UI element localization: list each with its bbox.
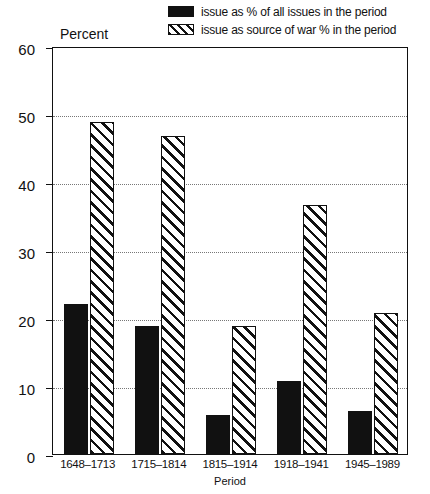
y-tick-label: 40 <box>18 177 35 194</box>
chart-legend: issue as % of all issues in the period i… <box>168 3 430 39</box>
bar-issues-share <box>64 304 88 454</box>
legend-swatch-solid-icon <box>168 6 194 17</box>
y-tick-mark: 10 <box>46 388 53 389</box>
y-tick-label: 20 <box>18 313 35 330</box>
x-axis-tick-labels: 1648–17131715–18141815–19141918–19411945… <box>52 458 408 476</box>
x-tick-label: 1815–1914 <box>203 458 258 470</box>
y-tick-label: 30 <box>18 245 35 262</box>
legend-item-solid: issue as % of all issues in the period <box>168 3 430 20</box>
legend-item-hatch: issue as source of war % in the period <box>168 21 430 38</box>
bars-layer <box>53 48 407 454</box>
bar-war-source-share <box>90 122 114 454</box>
legend-label-solid: issue as % of all issues in the period <box>201 5 387 19</box>
bar-war-source-share <box>232 326 256 454</box>
y-tick-label: 50 <box>18 109 35 126</box>
x-tick-label: 1945–1989 <box>345 458 400 470</box>
bar-issues-share <box>206 415 230 454</box>
x-tick-label: 1918–1941 <box>274 458 329 470</box>
y-axis-title: Percent <box>60 26 108 42</box>
legend-label-hatch: issue as source of war % in the period <box>201 23 396 37</box>
x-tick-label: 1648–1713 <box>60 458 115 470</box>
y-tick-mark: 30 <box>46 252 53 253</box>
bar-war-source-share <box>161 136 185 454</box>
y-tick-mark: 20 <box>46 320 53 321</box>
x-axis-title: Period <box>52 475 408 487</box>
bar-issues-share <box>348 411 372 454</box>
y-tick-mark: 40 <box>46 184 53 185</box>
bar-issues-share <box>277 381 301 454</box>
bar-issues-share <box>135 326 159 454</box>
y-tick-mark: 0 <box>46 456 53 457</box>
y-tick-label: 10 <box>18 381 35 398</box>
y-tick-mark: 50 <box>46 116 53 117</box>
x-tick-label: 1715–1814 <box>131 458 186 470</box>
y-tick-label: 0 <box>27 449 35 466</box>
bar-war-source-share <box>303 205 327 454</box>
legend-swatch-hatch-icon <box>168 24 194 35</box>
chart-plot-area: 0102030405060 <box>52 47 408 455</box>
y-tick-label: 60 <box>18 41 35 58</box>
y-tick-mark: 60 <box>46 48 53 49</box>
bar-war-source-share <box>374 313 398 454</box>
